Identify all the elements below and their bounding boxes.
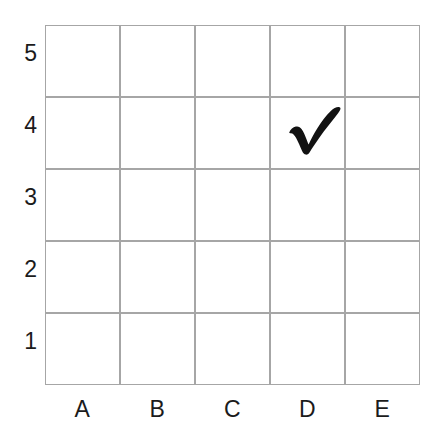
column-label-d: D: [270, 392, 345, 426]
grid-cell-c4[interactable]: [195, 97, 270, 169]
row-label-3: 3: [8, 161, 41, 233]
grid-cell-c3[interactable]: [195, 169, 270, 241]
grid-cell-a1[interactable]: [45, 313, 120, 385]
row-label-axis: 5 4 3 2 1: [8, 25, 41, 385]
grid-cell-c5[interactable]: [195, 25, 270, 97]
grid-cell-c2[interactable]: [195, 241, 270, 313]
grid-cell-e5[interactable]: [345, 25, 420, 97]
grid-cell-b3[interactable]: [120, 169, 195, 241]
grid-cell-a2[interactable]: [45, 241, 120, 313]
grid-cell-d3[interactable]: [270, 169, 345, 241]
row-label-1: 1: [8, 305, 41, 377]
grid-cell-b4[interactable]: [120, 97, 195, 169]
grid-cell-b1[interactable]: [120, 313, 195, 385]
grid-cell-d4[interactable]: [270, 97, 345, 169]
grid-cell-a4[interactable]: [45, 97, 120, 169]
column-label-axis: A B C D E: [45, 392, 420, 426]
grid-cell-d2[interactable]: [270, 241, 345, 313]
column-label-c: C: [195, 392, 270, 426]
grid-cell-layer: [45, 25, 420, 385]
column-label-a: A: [45, 392, 120, 426]
grid-cell-b5[interactable]: [120, 25, 195, 97]
grid-cell-d1[interactable]: [270, 313, 345, 385]
row-label-4: 4: [8, 89, 41, 161]
column-label-b: B: [120, 392, 195, 426]
grid-cell-d5[interactable]: [270, 25, 345, 97]
coordinate-grid-figure: 5 4 3 2 1 A B C D E: [0, 0, 437, 432]
grid-cell-e3[interactable]: [345, 169, 420, 241]
grid-cell-a5[interactable]: [45, 25, 120, 97]
row-label-5: 5: [8, 17, 41, 89]
column-label-e: E: [345, 392, 420, 426]
grid-cell-c1[interactable]: [195, 313, 270, 385]
grid-cell-a3[interactable]: [45, 169, 120, 241]
grid-cell-e2[interactable]: [345, 241, 420, 313]
grid-cell-e4[interactable]: [345, 97, 420, 169]
grid-cell-b2[interactable]: [120, 241, 195, 313]
checkmark-icon: [286, 106, 342, 156]
row-label-2: 2: [8, 233, 41, 305]
grid-cell-e1[interactable]: [345, 313, 420, 385]
checkmark-container: [270, 97, 345, 169]
